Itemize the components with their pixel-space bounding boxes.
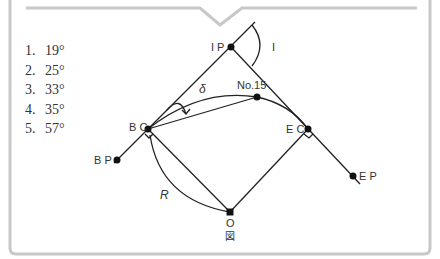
radius-ec-o: [230, 129, 308, 212]
figure-caption: 図: [225, 231, 235, 242]
point-no15: [254, 94, 261, 101]
label-ec: E C: [286, 123, 304, 135]
label-bp: B P: [94, 154, 112, 166]
label-center-o: O: [226, 217, 235, 229]
label-delta: δ: [199, 82, 206, 96]
label-bc: B C: [129, 121, 147, 133]
i-angle-arc: [252, 25, 260, 66]
delta-angle-arc: [167, 103, 186, 114]
right-angle-bc: [145, 134, 153, 138]
point-ec: [305, 126, 312, 133]
point-bp: [114, 157, 121, 164]
label-radius: R: [160, 188, 169, 202]
point-o: [227, 209, 234, 216]
tangent-line-start: [114, 22, 255, 163]
right-angle-ec: [304, 134, 313, 138]
label-ip: I P: [211, 41, 224, 53]
circular-curve: [148, 95, 308, 129]
label-no15: No.15: [237, 79, 266, 91]
curve-diagram: I P I δ No.15 B C E C B P E P R O 図: [0, 0, 440, 259]
label-i-angle: I: [272, 41, 275, 53]
point-ep: [350, 173, 357, 180]
label-ep: E P: [359, 170, 377, 182]
point-ip: [228, 44, 235, 51]
delta-arrow-icon: [182, 109, 190, 114]
